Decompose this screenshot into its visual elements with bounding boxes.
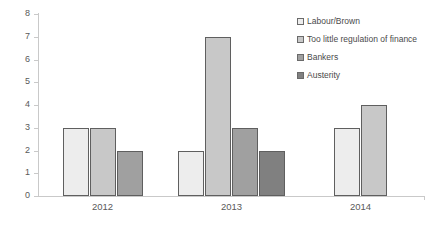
bar	[361, 105, 387, 196]
legend-item: Bankers	[297, 49, 447, 66]
y-axis-tick-label: 4	[8, 100, 30, 109]
x-axis-line	[38, 196, 425, 197]
x-axis-end-tick	[424, 196, 425, 200]
chart-legend: Labour/BrownToo little regulation of fin…	[297, 13, 447, 85]
bar	[334, 128, 360, 196]
bar	[259, 151, 285, 197]
bar	[232, 128, 258, 196]
y-axis-tick-label: 1	[8, 168, 30, 177]
y-axis-tick-label: 5	[8, 77, 30, 86]
y-axis-tick	[34, 196, 38, 197]
legend-item: Too little regulation of finance	[297, 31, 447, 48]
legend-swatch-icon	[297, 54, 304, 61]
bar-chart: 012345678 201220132014 Labour/BrownToo l…	[0, 0, 448, 226]
x-axis-label-2012: 2012	[38, 202, 167, 212]
y-axis-tick-label: 8	[8, 9, 30, 18]
y-axis-tick-label: 7	[8, 32, 30, 41]
y-axis-tick-label: 2	[8, 146, 30, 155]
legend-swatch-icon	[297, 72, 304, 79]
bar	[90, 128, 116, 196]
legend-item: Labour/Brown	[297, 13, 447, 30]
x-axis-label-2014: 2014	[296, 202, 425, 212]
y-axis-tick-label: 0	[8, 191, 30, 200]
y-axis-tick-label: 6	[8, 55, 30, 64]
legend-label: Austerity	[307, 71, 340, 80]
legend-swatch-icon	[297, 18, 304, 25]
legend-swatch-icon	[297, 36, 304, 43]
legend-label: Bankers	[307, 53, 338, 62]
x-axis-label-2013: 2013	[167, 202, 296, 212]
bar	[117, 151, 143, 197]
legend-label: Too little regulation of finance	[307, 35, 417, 44]
y-axis-tick-label: 3	[8, 123, 30, 132]
bar	[205, 37, 231, 196]
legend-item: Austerity	[297, 67, 447, 84]
legend-label: Labour/Brown	[307, 17, 360, 26]
bar	[63, 128, 89, 196]
bar	[178, 151, 204, 197]
